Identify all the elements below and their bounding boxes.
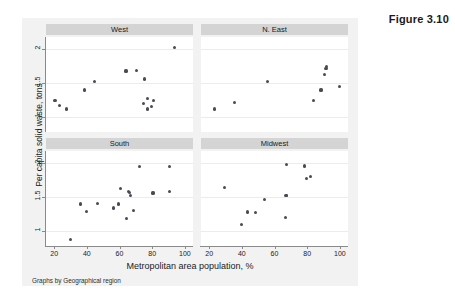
scatter-point: [303, 164, 306, 167]
scatter-point: [85, 210, 88, 213]
y-axis-tick-label: 2: [34, 156, 41, 168]
scatter-point: [119, 187, 122, 190]
scatter-point: [168, 190, 171, 193]
panel-plot-area: [46, 37, 193, 132]
x-axis-tick: [54, 246, 55, 249]
scatter-point: [112, 206, 115, 209]
x-axis-tick-label: 80: [144, 250, 160, 257]
scatter-point: [168, 165, 171, 168]
x-axis-tick: [185, 246, 186, 249]
y-axis-tick: [42, 163, 46, 164]
panel-n-east: N. East: [201, 24, 348, 132]
gridline-horizontal: [46, 231, 193, 232]
scatter-point: [138, 165, 141, 168]
plot-canvas: Per capita solid waste, tons Metropolita…: [22, 18, 358, 286]
scatter-point: [53, 99, 56, 102]
y-axis-tick-label: 1.5: [34, 190, 41, 202]
gridline-horizontal: [201, 163, 348, 164]
scatter-point: [246, 210, 249, 213]
x-axis-tick-label: 40: [79, 250, 95, 257]
scatter-point: [325, 65, 328, 68]
scatter-point: [146, 97, 149, 100]
gridline-horizontal: [201, 83, 348, 84]
y-axis-tick-label: 1.5: [34, 76, 41, 88]
scatter-point: [233, 101, 236, 104]
scatter-point: [338, 85, 341, 88]
gridline-horizontal: [201, 49, 348, 50]
gridline-horizontal: [46, 197, 193, 198]
figure-label: Figure 3.10: [389, 13, 449, 25]
y-axis-tick-label: 1: [34, 224, 41, 236]
panel-title: West: [46, 24, 193, 35]
panel-title: Midwest: [201, 138, 348, 149]
x-axis-tick: [209, 246, 210, 249]
y-axis-tick: [42, 83, 46, 84]
x-axis-tick-label: 60: [267, 250, 283, 257]
scatter-point: [65, 107, 68, 110]
scatter-point: [125, 217, 128, 220]
x-axis-tick-label: 80: [299, 250, 315, 257]
panel-west: West21.51: [46, 24, 193, 132]
gridline-horizontal: [201, 231, 348, 232]
x-axis-tick-label: 20: [201, 250, 217, 257]
x-axis-tick: [242, 246, 243, 249]
x-axis-tick-label: 100: [332, 250, 348, 257]
x-axis-tick-label: 60: [112, 250, 128, 257]
scatter-point: [319, 88, 322, 91]
gridline-horizontal: [46, 49, 193, 50]
figure-note: Graphs by Geographical region: [32, 277, 121, 284]
panel-south: South21.5120406080100: [46, 138, 193, 246]
scatter-point: [284, 216, 287, 219]
scatter-point: [117, 202, 120, 205]
gridline-horizontal: [46, 83, 193, 84]
figure-root: Figure 3.10 Per capita solid waste, tons…: [0, 0, 455, 298]
scatter-point: [83, 88, 86, 91]
gridline-horizontal: [201, 197, 348, 198]
x-axis-tick: [307, 246, 308, 249]
panel-midwest: Midwest20406080100: [201, 138, 348, 246]
y-axis-title: Per capita solid waste, tons: [34, 40, 44, 230]
scatter-point: [135, 69, 138, 72]
scatter-point: [69, 238, 72, 241]
gridline-horizontal: [46, 163, 193, 164]
panel-title: South: [46, 138, 193, 149]
scatter-point: [58, 104, 61, 107]
scatter-point: [132, 209, 135, 212]
gridline-horizontal: [201, 117, 348, 118]
y-axis-tick: [42, 117, 46, 118]
y-axis-tick-label: 2: [34, 42, 41, 54]
panel-plot-area: [201, 37, 348, 132]
gridline-horizontal: [46, 117, 193, 118]
scatter-point: [151, 191, 154, 194]
scatter-point: [124, 69, 127, 72]
scatter-point: [213, 107, 216, 110]
scatter-point: [142, 102, 145, 105]
x-axis-tick: [152, 246, 153, 249]
scatter-point: [79, 202, 82, 205]
x-axis-tick: [340, 246, 341, 249]
panel-grid: West21.51N. EastSouth21.5120406080100Mid…: [46, 24, 348, 252]
x-axis-tick: [120, 246, 121, 249]
panel-title: N. East: [201, 24, 348, 35]
panel-plot-area: [46, 151, 193, 246]
scatter-point: [285, 163, 288, 166]
scatter-point: [305, 177, 308, 180]
y-axis-tick: [42, 231, 46, 232]
scatter-point: [152, 99, 155, 102]
x-axis-tick-label: 100: [177, 250, 193, 257]
scatter-point: [240, 223, 243, 226]
panel-plot-area: [201, 151, 348, 246]
scatter-point: [309, 175, 312, 178]
x-axis-title: Metropolitan area population, %: [22, 261, 358, 271]
scatter-point: [96, 202, 99, 205]
scatter-point: [263, 198, 266, 201]
x-axis-tick-label: 40: [234, 250, 250, 257]
y-axis-tick: [42, 49, 46, 50]
x-axis-tick: [87, 246, 88, 249]
scatter-point: [254, 211, 257, 214]
x-axis-tick-label: 20: [46, 250, 62, 257]
scatter-point: [223, 186, 226, 189]
scatter-point: [146, 107, 149, 110]
x-axis-tick: [275, 246, 276, 249]
scatter-point: [323, 73, 326, 76]
